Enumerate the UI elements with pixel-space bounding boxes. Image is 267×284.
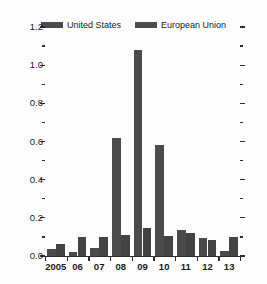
x-tick: [197, 257, 198, 261]
bar-united-states-2005: [47, 249, 56, 256]
x-tick-label: 13: [213, 261, 245, 272]
bar-united-states-06: [69, 252, 78, 256]
y-tick-label: 0.0: [3, 251, 43, 261]
bar-european-union-07: [99, 237, 108, 256]
bar-united-states-07: [90, 248, 99, 256]
bar-european-union-12: [208, 240, 217, 256]
y-tick-label: 1.0: [3, 60, 43, 70]
x-tick: [132, 257, 133, 261]
bar-united-states-10: [155, 145, 164, 256]
y-tick-major-right: [240, 217, 245, 218]
x-tick: [110, 257, 111, 261]
y-tick-label: 1.2: [3, 22, 43, 32]
y-tick-label: 0.6: [3, 137, 43, 147]
y-tick-major-right: [240, 103, 245, 104]
x-tick: [218, 257, 219, 261]
bar-chart: United States European Union 0.00.20.40.…: [0, 0, 267, 284]
bar-united-states-09: [134, 50, 143, 256]
bar-european-union-11: [186, 233, 195, 256]
bars-layer: [45, 27, 240, 256]
bar-european-union-08: [121, 235, 130, 256]
y-tick-minor-right: [240, 122, 243, 123]
y-tick-label: 0.8: [3, 98, 43, 108]
bar-european-union-06: [78, 237, 87, 256]
bar-european-union-13: [229, 237, 238, 256]
y-tick-minor-right: [240, 84, 243, 85]
x-tick: [240, 257, 241, 261]
y-tick-major-right: [240, 141, 245, 142]
y-tick-major-right: [240, 179, 245, 180]
bar-united-states-11: [177, 230, 186, 256]
y-tick-label: 0.4: [3, 175, 43, 185]
y-tick-minor-right: [240, 160, 243, 161]
x-tick: [45, 257, 46, 261]
y-tick-minor-right: [240, 45, 243, 46]
y-tick-minor-right: [240, 236, 243, 237]
bar-european-union-2005: [56, 244, 65, 256]
bar-european-union-10: [164, 236, 173, 256]
bar-european-union-09: [143, 228, 152, 256]
y-tick-label: 0.2: [3, 213, 43, 223]
bar-united-states-08: [112, 138, 121, 256]
bar-united-states-12: [199, 238, 208, 256]
y-tick-minor-right: [240, 198, 243, 199]
y-tick-major-right: [240, 26, 245, 27]
y-tick-major-right: [240, 65, 245, 66]
x-tick: [153, 257, 154, 261]
x-axis-baseline: [45, 256, 240, 257]
x-tick: [88, 257, 89, 261]
x-tick: [175, 257, 176, 261]
x-tick: [67, 257, 68, 261]
bar-united-states-13: [220, 251, 229, 256]
